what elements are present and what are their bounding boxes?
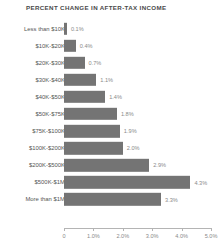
bar-row: $75K-$100K1.9% bbox=[0, 123, 223, 140]
bar-value-label: 1.1% bbox=[100, 77, 113, 83]
bar-category-label: $40K-$50K bbox=[36, 94, 65, 100]
bar-value-label: 4.3% bbox=[194, 179, 207, 185]
bar-wrapper: 4.3% bbox=[64, 176, 207, 188]
bar-wrapper: 1.4% bbox=[64, 91, 122, 103]
x-axis-tick bbox=[211, 228, 212, 231]
x-axis-tick bbox=[93, 228, 94, 231]
bar-category-label: $20K-$30K bbox=[36, 60, 65, 66]
bar-value-label: 2.0% bbox=[127, 145, 140, 151]
bar-value-label: 2.9% bbox=[153, 162, 166, 168]
bar-value-label: 1.9% bbox=[124, 128, 137, 134]
x-axis-line bbox=[64, 228, 211, 229]
bar-wrapper: 0.4% bbox=[64, 39, 93, 51]
bar-wrapper: 0.1% bbox=[64, 22, 84, 34]
bar-wrapper: 2.9% bbox=[64, 159, 166, 171]
bar bbox=[64, 108, 117, 120]
bar-row: $500K-$1M4.3% bbox=[0, 174, 223, 191]
x-axis-tick-label: 0 bbox=[62, 233, 65, 239]
bar-category-label: $10K-$20K bbox=[36, 43, 65, 49]
bar-category-label: More than $1M bbox=[25, 196, 65, 202]
x-axis-tick-label: 3.0% bbox=[146, 233, 159, 239]
bar-row: More than $1M3.3% bbox=[0, 191, 223, 208]
bar-wrapper: 1.1% bbox=[64, 74, 113, 86]
bar-wrapper: 0.7% bbox=[64, 57, 101, 69]
bar-value-label: 0.7% bbox=[89, 60, 102, 66]
bar-row: $10K-$20K0.4% bbox=[0, 37, 223, 54]
bar-category-label: $50K-$75K bbox=[36, 111, 65, 117]
x-axis-tick bbox=[123, 228, 124, 231]
x-axis-tick bbox=[64, 228, 65, 231]
bar-category-label: $100K-$200K bbox=[29, 145, 65, 151]
bar-value-label: 0.1% bbox=[71, 26, 84, 32]
bar-value-label: 1.8% bbox=[121, 111, 134, 117]
bar-row: $40K-$50K1.4% bbox=[0, 88, 223, 105]
bar-row: $100K-$200K2.0% bbox=[0, 140, 223, 157]
bar bbox=[64, 125, 120, 137]
bar bbox=[64, 176, 190, 188]
bar-wrapper: 2.0% bbox=[64, 142, 140, 154]
bar-row: $20K-$30K0.7% bbox=[0, 54, 223, 71]
bar-category-label: $30K-$40K bbox=[36, 77, 65, 83]
bar bbox=[64, 159, 149, 171]
bar-row: $50K-$75K1.8% bbox=[0, 105, 223, 122]
x-axis-tick bbox=[152, 228, 153, 231]
bar-value-label: 1.4% bbox=[109, 94, 122, 100]
bar-category-label: $200K-$500K bbox=[29, 162, 65, 168]
x-axis-tick-label: 2.0% bbox=[116, 233, 129, 239]
bar bbox=[64, 57, 85, 69]
bar bbox=[64, 74, 96, 86]
bar-value-label: 0.4% bbox=[80, 43, 93, 49]
bar-category-label: $75K-$100K bbox=[32, 128, 65, 134]
x-axis-tick bbox=[182, 228, 183, 231]
bar-row: Less than $10K0.1% bbox=[0, 20, 223, 37]
bar bbox=[64, 91, 105, 103]
bar-value-label: 3.3% bbox=[165, 196, 178, 202]
bar-wrapper: 3.3% bbox=[64, 193, 178, 205]
bar-row: $200K-$500K2.9% bbox=[0, 157, 223, 174]
bar-row: $30K-$40K1.1% bbox=[0, 71, 223, 88]
bar bbox=[64, 39, 76, 51]
bar-wrapper: 1.8% bbox=[64, 108, 134, 120]
chart-title: PERCENT CHANGE IN AFTER-TAX INCOME bbox=[26, 4, 166, 11]
plot-area: Less than $10K0.1%$10K-$20K0.4%$20K-$30K… bbox=[0, 20, 223, 225]
x-axis-tick-label: 1.0% bbox=[87, 233, 100, 239]
bar bbox=[64, 193, 161, 205]
x-axis-tick-label: 4.0% bbox=[175, 233, 188, 239]
bar-wrapper: 1.9% bbox=[64, 125, 137, 137]
x-axis-tick-label: 5.0% bbox=[205, 233, 218, 239]
bar-category-label: $500K-$1M bbox=[35, 179, 65, 185]
bar bbox=[64, 22, 67, 34]
bar-category-label: Less than $10K bbox=[24, 26, 65, 32]
bar bbox=[64, 142, 123, 154]
chart-container: PERCENT CHANGE IN AFTER-TAX INCOME Less … bbox=[0, 0, 223, 249]
